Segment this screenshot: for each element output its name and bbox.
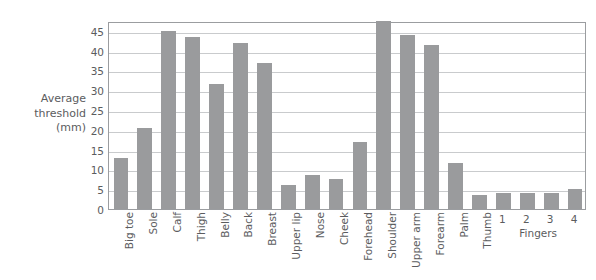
x-axis-tick-label: 1: [499, 214, 506, 225]
y-axis-tick-label: 5: [78, 185, 104, 196]
bar: [472, 195, 487, 209]
bar: [520, 193, 535, 209]
x-axis-tick-label: Upper arm: [411, 212, 422, 268]
x-axis-tick-label: Nose: [315, 212, 326, 238]
bar: [424, 45, 439, 209]
bar: [185, 37, 200, 209]
x-axis-tick-label: 4: [571, 214, 578, 225]
bar: [400, 35, 415, 209]
x-axis-tick-label: Sole: [148, 212, 159, 234]
bar: [114, 158, 129, 209]
bar: [353, 142, 368, 209]
x-axis-tick-label: Cheek: [339, 212, 350, 245]
x-axis-tick-label: Big toe: [124, 212, 135, 249]
y-axis-tick-label: 25: [78, 106, 104, 117]
bar: [233, 43, 248, 209]
bar: [496, 193, 511, 209]
bars-layer: [109, 23, 585, 209]
x-axis-tick-label: 2: [523, 214, 530, 225]
x-axis-tick-label: Calf: [172, 212, 183, 232]
bar: [305, 175, 320, 209]
y-axis-tick-label: 10: [78, 165, 104, 176]
y-axis-title: Average threshold (mm): [8, 92, 86, 136]
x-axis-tick-label: Thumb: [482, 212, 493, 249]
y-axis-tick-label: 0: [78, 205, 104, 216]
bar: [376, 21, 391, 209]
x-axis-tick-label: 3: [547, 214, 554, 225]
plot-area: [108, 22, 586, 210]
y-axis-tick-label: 30: [78, 86, 104, 97]
bar-chart-figure: Average threshold (mm) 05101520253035404…: [0, 0, 596, 280]
bar: [209, 84, 224, 209]
y-axis-tick-labels: 051015202530354045: [78, 22, 104, 210]
bar: [544, 193, 559, 209]
bar: [281, 185, 296, 209]
x-axis-tick-label: Forearm: [435, 212, 446, 255]
y-axis-tick-label: 35: [78, 66, 104, 77]
x-axis-tick-label: Shoulder: [387, 212, 398, 259]
bar: [257, 63, 272, 209]
x-axis-tick-label: Palm: [459, 212, 470, 237]
x-axis-tick-label: Forehead: [363, 212, 374, 261]
x-axis-group-label: Fingers: [519, 228, 557, 239]
x-axis-tick-label: Breast: [267, 212, 278, 246]
bar: [161, 31, 176, 209]
y-axis-tick-label: 45: [78, 27, 104, 38]
bar: [137, 128, 152, 209]
x-axis-tick-label: Thigh: [196, 212, 207, 241]
y-axis-tick-label: 40: [78, 46, 104, 57]
bar: [448, 163, 463, 209]
x-axis-tick-label: Belly: [220, 212, 231, 238]
bar: [568, 189, 583, 209]
x-axis-tick-label: Back: [243, 212, 254, 238]
y-axis-tick-label: 15: [78, 145, 104, 156]
y-axis-tick-label: 20: [78, 126, 104, 137]
x-axis-tick-label: Upper lip: [291, 212, 302, 260]
bar: [329, 179, 344, 209]
x-axis-tick-labels: Big toeSoleCalfThighBellyBackBreastUpper…: [108, 212, 586, 274]
